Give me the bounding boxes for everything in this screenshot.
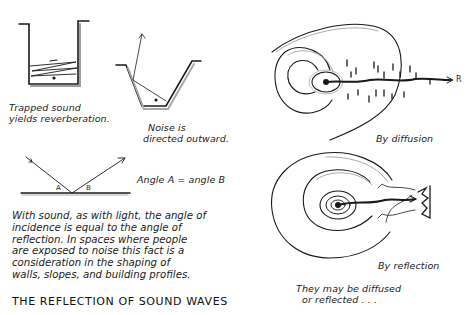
angle-label-a: A [56, 185, 61, 192]
trapped-caption-line1: Trapped sound [9, 103, 81, 113]
paragraph-line: incidence is equal to the angle of [12, 222, 242, 234]
trench-caption-line1: Noise is [148, 123, 186, 133]
reflection-diagram [272, 152, 430, 258]
paragraph-line: are exposed to noise this fact is a [12, 245, 242, 257]
diffusion-diagram [272, 24, 453, 140]
angle-diagram [21, 157, 130, 195]
angle-caption: Angle A = angle B [137, 175, 225, 185]
angle-label-b: B [86, 185, 91, 192]
paragraph-line: With sound, as with light, the angle of [12, 210, 242, 222]
trench-diagram [116, 34, 201, 109]
trapped-caption-line2: yields reverberation. [9, 114, 110, 124]
paragraph-line: walls, slopes, and building profiles. [12, 269, 242, 281]
paragraph-line: reflection. In spaces where people [12, 234, 242, 246]
paragraph-line: consideration in the shaping of [12, 257, 242, 269]
diffusion-caption: By diffusion [376, 134, 433, 144]
explanation-paragraph: With sound, as with light, the angle of … [12, 210, 242, 281]
reflection-caption: By reflection [378, 261, 439, 271]
reflection-note-line2: or reflected . . . [302, 295, 377, 305]
reflection-note-line1: They may be diffused [296, 284, 401, 294]
trench-caption-line2: directed outward. [143, 134, 229, 144]
figure-title: THE REFLECTION OF SOUND WAVES [12, 295, 228, 308]
trapped-sound-diagram [19, 21, 89, 86]
receiver-label: R [456, 76, 462, 84]
